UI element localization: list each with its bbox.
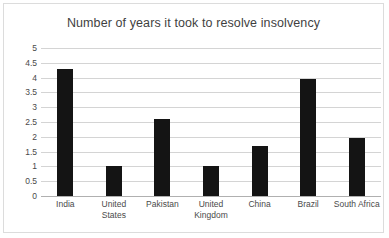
bar[interactable]: [106, 166, 122, 196]
y-axis-tick-label: 3.5: [11, 87, 37, 97]
x-axis-tick-label: Pakistan: [138, 199, 187, 210]
y-axis-tick-label: 4.5: [11, 58, 37, 68]
y-axis-tick-label: 3: [11, 102, 37, 112]
bar-slot: [235, 48, 284, 196]
x-axis-tick-label: UnitedStates: [90, 199, 139, 221]
chart-container: Number of years it took to resolve insol…: [3, 3, 384, 233]
bar[interactable]: [300, 79, 316, 196]
y-axis-tick-label: 4: [11, 73, 37, 83]
y-axis-tick-label: 2.5: [11, 117, 37, 127]
x-axis-line: [41, 196, 381, 197]
y-axis-tick-label: 0: [11, 191, 37, 201]
y-axis-tick-label: 2: [11, 132, 37, 142]
y-axis-tick-label: 5: [11, 43, 37, 53]
bar-slot: [90, 48, 139, 196]
y-axis-tick-label: 1: [11, 161, 37, 171]
x-axis-tick-label: UnitedKingdom: [187, 199, 236, 221]
x-axis: IndiaUnitedStatesPakistanUnitedKingdomCh…: [41, 199, 381, 233]
y-axis-tick-label: 1.5: [11, 147, 37, 157]
x-axis-tick-label: India: [41, 199, 90, 210]
bar[interactable]: [203, 166, 219, 196]
bar-slot: [187, 48, 236, 196]
x-axis-tick-label: South Africa: [332, 199, 381, 210]
bar[interactable]: [252, 146, 268, 196]
bar[interactable]: [154, 119, 170, 196]
y-axis: 00.511.522.533.544.55: [9, 48, 37, 196]
chart-title: Number of years it took to resolve insol…: [4, 16, 383, 30]
bar-slot: [41, 48, 90, 196]
x-axis-tick-label: Brazil: [284, 199, 333, 210]
bar-slot: [138, 48, 187, 196]
bar-series: [41, 48, 381, 196]
bar-slot: [284, 48, 333, 196]
y-axis-tick-label: 0.5: [11, 176, 37, 186]
bar-slot: [332, 48, 381, 196]
bar[interactable]: [349, 138, 365, 196]
x-axis-tick-label: China: [235, 199, 284, 210]
bar[interactable]: [57, 69, 73, 196]
